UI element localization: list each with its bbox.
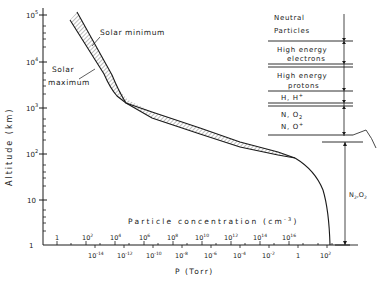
x-pres-tick-1e-2: 10-2	[262, 251, 275, 260]
y-tick-1e5: 105	[26, 9, 38, 20]
region-legend: Neutral Particles High energy electrons …	[268, 14, 376, 245]
x-conc-tick-1e2: 102	[82, 233, 93, 242]
x-bottom-title: P (Torr)	[175, 267, 214, 276]
region-n2-o2: N2,O2	[349, 191, 367, 200]
region-protons-2: protons	[288, 82, 319, 90]
x-conc-tick-1e4: 104	[110, 233, 121, 242]
x-conc-tick-1e8: 108	[167, 233, 178, 242]
x-conc-tick-1e16: 1016	[282, 233, 296, 242]
x-pres-tick-1e-4: 10-4	[233, 251, 246, 260]
region-electrons-2: electrons	[287, 55, 326, 63]
region-protons-1: High energy	[277, 72, 327, 80]
x-conc-tick-1: 1	[55, 234, 59, 242]
x-pres-tick-1e-14: 10-14	[88, 251, 104, 260]
x-axis: 1 102 104 106 108 1010 1012 1014 1016 10…	[43, 216, 350, 276]
solar-minimum-label: Solar minimum	[100, 28, 165, 37]
x-top-title: Particle concentration (cm-3)	[128, 216, 299, 226]
region-n-o-plus: N, O+	[281, 121, 304, 131]
x-conc-tick-1e6: 106	[139, 233, 150, 242]
region-n-o2: N, O2	[281, 111, 303, 120]
region-neutral-1: Neutral	[274, 14, 305, 22]
solar-maximum-label-2: maximum	[48, 78, 90, 87]
x-conc-tick-1e10: 1010	[195, 233, 209, 242]
x-pres-tick-1e2: 102	[320, 251, 331, 260]
atmosphere-curve	[295, 158, 330, 245]
y-axis: 105 104 103 102 10 1 Altitude (km)	[5, 8, 47, 250]
x-pres-tick-1e-6: 10-6	[204, 251, 217, 260]
y-tick-1e2: 102	[26, 148, 38, 159]
x-pres-tick-1e-8: 10-8	[175, 251, 188, 260]
region-electrons-1: High energy	[277, 46, 327, 54]
solar-maximum-curve	[70, 20, 295, 158]
y-tick-1e3: 103	[26, 102, 38, 113]
y-tick-10: 10	[27, 197, 36, 205]
x-conc-tick-1e12: 1012	[224, 233, 238, 242]
y-tick-1e4: 104	[26, 56, 38, 67]
region-neutral-2: Particles	[274, 27, 310, 35]
x-pres-tick-1e-12: 10-12	[117, 251, 133, 260]
region-h: H, H+	[281, 92, 304, 102]
x-pres-tick-1e-10: 10-10	[146, 251, 162, 260]
y-tick-1: 1	[29, 242, 33, 250]
solar-maximum-label-1: Solar	[52, 65, 74, 74]
altitude-concentration-chart: 105 104 103 102 10 1 Altitude (km)	[0, 0, 383, 281]
x-conc-tick-1e14: 1014	[253, 233, 267, 242]
x-pres-tick-1: 1	[296, 252, 300, 260]
y-axis-title: Altitude (km)	[5, 108, 14, 186]
